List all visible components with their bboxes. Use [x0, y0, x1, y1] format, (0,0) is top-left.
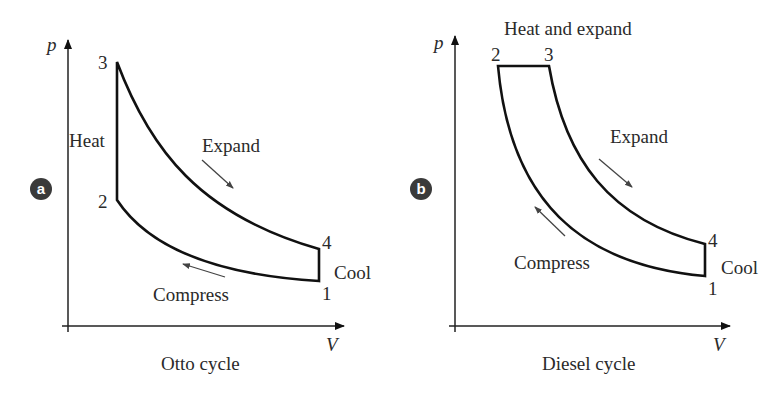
point-3-label: 3: [544, 45, 554, 64]
cool-label: Cool: [334, 263, 371, 282]
point-1-label: 1: [708, 279, 718, 298]
point-1-label: 1: [322, 284, 332, 303]
compress-label: Compress: [514, 253, 590, 272]
expand-arrow: [599, 159, 632, 187]
compress-label: Compress: [153, 285, 229, 304]
point-2-label: 2: [98, 192, 108, 211]
expand-label: Expand: [610, 127, 668, 146]
v-axis-label: V: [326, 335, 338, 354]
v-axis-label: V: [713, 335, 725, 354]
point-2-label: 2: [491, 45, 501, 64]
panel-b-badge: b: [410, 178, 432, 200]
heat-label: Heat: [69, 131, 105, 150]
heat-and-expand-label: Heat and expand: [504, 19, 632, 38]
diesel-cycle-title: Diesel cycle: [542, 354, 635, 373]
diagram-canvas: [0, 0, 782, 399]
point-4-label: 4: [322, 233, 332, 252]
expand-arrow: [202, 160, 233, 188]
compress-arrow: [535, 207, 565, 236]
otto-cycle-title: Otto cycle: [161, 354, 240, 373]
panel-a-badge: a: [30, 178, 52, 200]
cool-label: Cool: [721, 258, 758, 277]
otto-cycle-loop: [117, 62, 319, 281]
p-axis-label: p: [47, 35, 57, 54]
diesel-cycle-diagram: [449, 36, 730, 332]
point-3-label: 3: [98, 53, 108, 72]
point-4-label: 4: [708, 231, 718, 250]
expand-label: Expand: [202, 136, 260, 155]
diesel-cycle-loop: [498, 66, 705, 276]
p-axis-label: p: [434, 33, 444, 52]
